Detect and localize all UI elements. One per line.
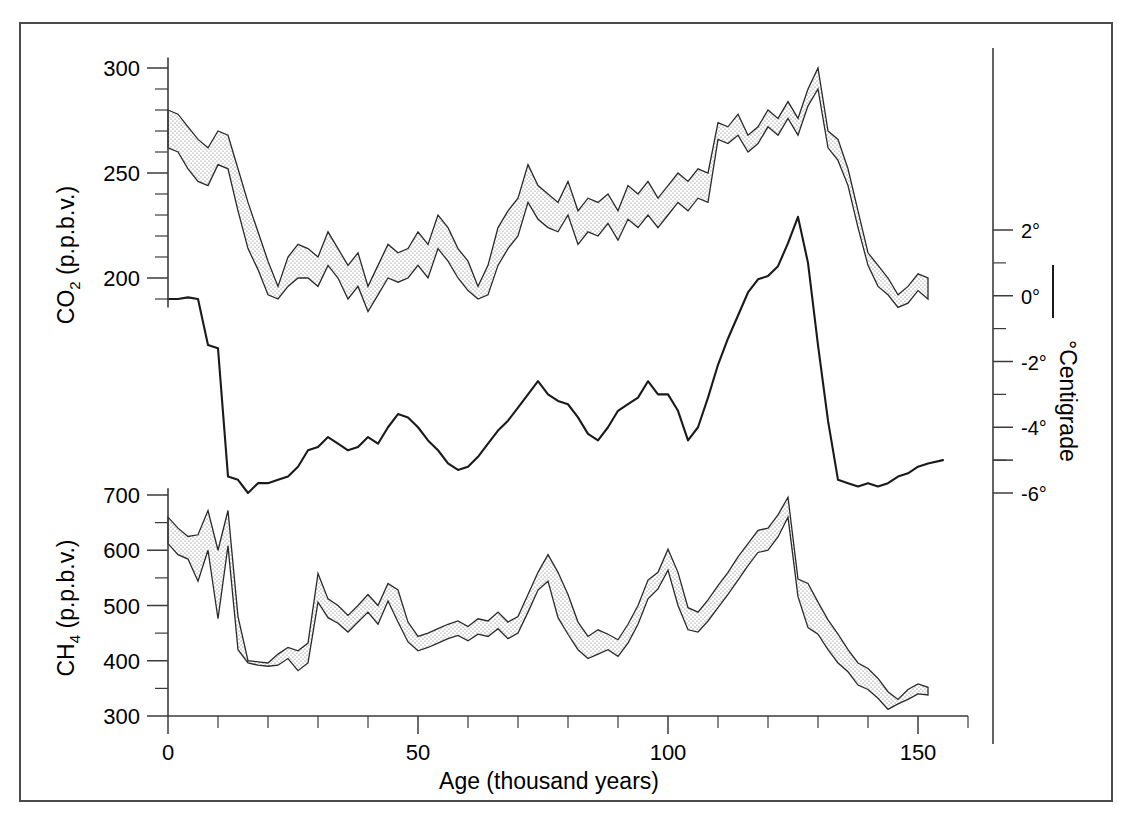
ch4-band [168, 497, 928, 709]
x-tick-marks [168, 716, 968, 734]
figure-root: 200250300 CO2 (p.p.b.v.) 300400500600700… [0, 0, 1131, 823]
x-tick-labels: 050100150 [162, 740, 936, 765]
temperature-axis: 2°0°-2°-4°-6° °Centigrade [993, 48, 1081, 744]
x-tick-label: 0 [162, 740, 174, 765]
temperature-tick-label: -2° [1021, 352, 1047, 374]
co2-tick-label: 200 [103, 266, 140, 291]
ch4-axis-title-main: CH [53, 643, 79, 676]
ch4-tick-label: 600 [103, 538, 140, 563]
co2-tick-labels: 200250300 [103, 56, 140, 291]
ice-core-chart: 200250300 CO2 (p.p.b.v.) 300400500600700… [0, 0, 1131, 823]
temperature-tick-marks [993, 230, 1013, 493]
co2-axis-title-subscript: 2 [66, 281, 83, 289]
x-tick-label: 150 [900, 740, 937, 765]
ch4-axis: 300400500600700 CH4 (p.p.b.v.) [53, 483, 168, 729]
ch4-axis-title-units: (p.p.b.v.) [53, 539, 79, 634]
plot-layer [168, 68, 943, 709]
ch4-tick-label: 500 [103, 594, 140, 619]
x-tick-label: 50 [406, 740, 430, 765]
co2-band [168, 68, 928, 312]
co2-axis-title-units: (p.p.b.v.) [53, 186, 79, 281]
ch4-tick-label: 400 [103, 649, 140, 674]
temperature-axis-title: °Centigrade [1055, 340, 1081, 462]
temperature-curve [168, 217, 943, 493]
co2-tick-marks [147, 68, 168, 299]
x-axis: 050100150 Age (thousand years) [162, 716, 968, 794]
temperature-tick-label: 2° [1021, 220, 1040, 242]
x-axis-title: Age (thousand years) [439, 768, 659, 794]
ch4-tick-label: 300 [103, 704, 140, 729]
co2-axis-title-main: CO [53, 290, 79, 325]
temperature-tick-label: -4° [1021, 417, 1047, 439]
co2-tick-label: 300 [103, 56, 140, 81]
temperature-tick-label: -6° [1021, 483, 1047, 505]
co2-axis: 200250300 CO2 (p.p.b.v.) [53, 56, 168, 324]
ch4-tick-marks [147, 495, 168, 716]
ch4-axis-title-subscript: 4 [66, 635, 83, 643]
ch4-axis-title: CH4 (p.p.b.v.) [53, 539, 83, 676]
ch4-tick-labels: 300400500600700 [103, 483, 140, 729]
temperature-tick-labels: 2°0°-2°-4°-6° [1021, 220, 1047, 505]
co2-axis-title: CO2 (p.p.b.v.) [53, 186, 83, 324]
ch4-tick-label: 700 [103, 483, 140, 508]
co2-tick-label: 250 [103, 161, 140, 186]
x-tick-label: 100 [650, 740, 687, 765]
temperature-tick-label: 0° [1021, 286, 1040, 308]
